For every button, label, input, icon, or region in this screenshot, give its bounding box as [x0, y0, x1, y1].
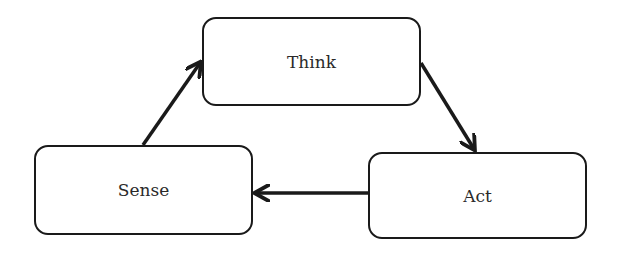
node-sense: Sense: [34, 145, 253, 235]
node-act-label: Act: [463, 186, 492, 206]
node-think: Think: [202, 17, 421, 106]
node-act: Act: [368, 152, 587, 239]
arrow-think-to-act: [421, 63, 474, 149]
node-think-label: Think: [287, 52, 336, 72]
arrow-sense-to-think: [143, 63, 200, 145]
node-sense-label: Sense: [118, 180, 169, 200]
diagram-canvas: Think Act Sense: [0, 0, 623, 253]
